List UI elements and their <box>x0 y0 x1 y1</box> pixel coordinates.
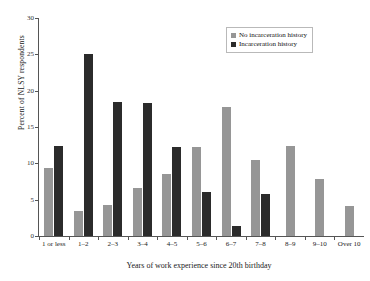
x-axis-tick-label: 2–3 <box>98 240 128 248</box>
y-axis-tick-label: 0 <box>16 232 34 240</box>
bar <box>74 211 83 236</box>
y-axis-tick-label: 30 <box>16 14 34 22</box>
bar <box>44 168 53 236</box>
bar <box>251 160 260 236</box>
x-axis-tick-label: 5–6 <box>187 240 217 248</box>
x-axis-tick-label: 6–7 <box>216 240 246 248</box>
bar <box>143 103 152 236</box>
x-axis-tick-label: 1 or less <box>39 240 69 248</box>
y-axis-tick-label: 10 <box>16 159 34 167</box>
x-axis-ticks: 1 or less1–22–33–44–55–66–77–88–99–10Ove… <box>39 240 364 248</box>
y-axis-tick-label: 25 <box>16 50 34 58</box>
legend-swatch-icon <box>231 42 236 47</box>
legend-label: Incarceration history <box>239 40 297 49</box>
legend-item-incarceration-history: Incarceration history <box>231 40 307 49</box>
bar <box>162 174 171 236</box>
bar-group <box>128 18 158 236</box>
bar-groups <box>39 18 364 236</box>
x-axis-tick-label: 8–9 <box>275 240 305 248</box>
legend-swatch-icon <box>231 33 236 38</box>
bar <box>133 188 142 236</box>
x-axis-tick-label: 9–10 <box>305 240 335 248</box>
bar <box>232 226 241 236</box>
bar <box>222 107 231 236</box>
legend: No incarceration history Incarceration h… <box>226 27 313 53</box>
x-axis-tick-label: 7–8 <box>246 240 276 248</box>
bar <box>286 146 295 236</box>
bar-chart: Percent of NLSY respondents 051015202530… <box>0 0 370 281</box>
bar-group <box>98 18 128 236</box>
y-axis-title: Percent of NLSY respondents <box>17 8 26 158</box>
x-axis-tick-label: Over 10 <box>334 240 364 248</box>
bar <box>202 192 211 236</box>
x-axis-tick-label: 4–5 <box>157 240 187 248</box>
plot-area: 051015202530 <box>38 18 364 237</box>
x-axis-title: Years of work experience since 20th birt… <box>30 261 368 270</box>
bar-group <box>157 18 187 236</box>
bar <box>261 194 270 236</box>
bar <box>315 179 324 236</box>
x-axis-tick-label: 1–2 <box>69 240 99 248</box>
legend-label: No incarceration history <box>239 31 307 40</box>
bar <box>345 206 354 236</box>
bar <box>172 147 181 236</box>
bar <box>192 147 201 236</box>
bar <box>84 54 93 236</box>
bar-group <box>187 18 217 236</box>
x-axis-tick-label: 3–4 <box>128 240 158 248</box>
x-axis-line <box>38 236 364 237</box>
bar-group <box>39 18 69 236</box>
bar <box>54 146 63 236</box>
bar-group <box>334 18 364 236</box>
y-axis-tick-label: 5 <box>16 196 34 204</box>
bar-group <box>69 18 99 236</box>
bar <box>103 205 112 236</box>
y-axis-tick-label: 20 <box>16 87 34 95</box>
legend-item-no-incarceration-history: No incarceration history <box>231 31 307 40</box>
y-axis-tick-label: 15 <box>16 123 34 131</box>
bar <box>113 102 122 236</box>
